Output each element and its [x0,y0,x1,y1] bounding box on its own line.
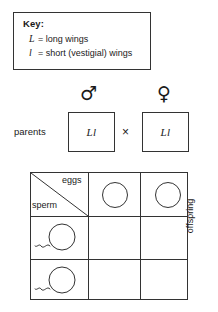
grid-horizontal-line-2 [31,259,187,260]
allele-symbol-recessive: l [29,46,38,60]
egg-gamete-circle-1[interactable] [102,182,128,208]
offspring-label: offspring [185,199,195,233]
grid-vertical-line-2 [140,173,141,299]
key-description-dominant: long wings [46,34,89,44]
cross-operator: × [122,125,129,139]
egg-gamete-circle-2[interactable] [155,182,181,208]
parent-genotype-male: Ll [87,126,97,138]
sperm-gamete-2[interactable] [34,261,86,301]
sperm-label: sperm [32,200,57,211]
key-equals-recessive: = [38,48,43,58]
female-symbol-icon: ♀ [157,84,171,103]
punnett-square-grid: eggs sperm [30,172,188,300]
key-box: Key: L= long wings l= short (vestigial) … [13,12,151,70]
key-equals-dominant: = [38,34,43,44]
sperm-gamete-1[interactable] [34,218,86,258]
key-title: Key: [23,18,143,30]
male-symbol-icon: ♂ [80,84,97,103]
key-entry-dominant: L= long wings [23,32,143,46]
parents-label: parents [14,126,46,138]
key-entry-recessive: l= short (vestigial) wings [23,46,143,60]
genetics-punnett-diagram: Key: L= long wings l= short (vestigial) … [0,0,218,312]
allele-symbol-dominant: L [29,32,38,46]
key-description-recessive: short (vestigial) wings [46,48,133,58]
parent-genotype-female: Ll [161,126,171,138]
parent-genotype-box-male: Ll [68,112,115,152]
eggs-label: eggs [62,175,82,186]
parent-genotype-box-female: Ll [142,112,189,152]
